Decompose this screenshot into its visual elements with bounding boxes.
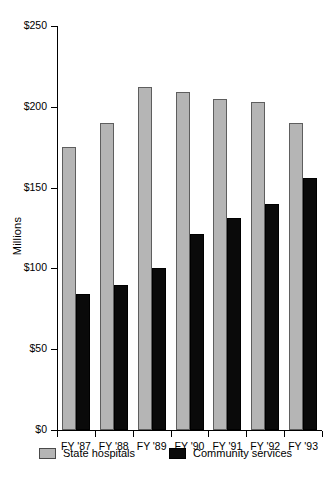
legend-swatch-icon xyxy=(39,448,56,459)
x-axis-tick xyxy=(322,431,323,437)
bar-chart: Millions $0$50$100$150$200$250 FY '87FY … xyxy=(0,0,331,488)
x-axis-tick xyxy=(284,431,285,437)
x-axis-tick xyxy=(57,431,58,437)
y-axis-tick-label: $150 xyxy=(24,181,47,193)
y-axis-tick-label: $50 xyxy=(29,342,47,354)
y-axis-tick: $250 xyxy=(51,26,58,27)
bar-state-hospitals xyxy=(62,147,76,430)
x-axis-tick xyxy=(95,431,96,437)
bar-community-services xyxy=(265,204,279,430)
chart-legend: State hospitals Community services xyxy=(0,447,331,459)
bar-community-services xyxy=(114,285,128,430)
bar-community-services xyxy=(190,234,204,430)
y-axis-tick-label: $100 xyxy=(24,261,47,273)
bar-state-hospitals xyxy=(176,92,190,430)
bar-state-hospitals xyxy=(138,87,152,430)
bar-community-services xyxy=(303,178,317,430)
legend-label: State hospitals xyxy=(63,447,135,459)
x-axis-tick xyxy=(133,431,134,437)
plot-area: $0$50$100$150$200$250 FY '87FY '88FY '89… xyxy=(57,26,322,431)
x-axis-tick xyxy=(208,431,209,437)
y-axis-tick: $200 xyxy=(51,107,58,108)
bar-community-services xyxy=(227,218,241,430)
bar-community-services xyxy=(76,294,90,430)
y-axis-tick-label: $200 xyxy=(24,100,47,112)
legend-item-community-services: Community services xyxy=(169,447,292,459)
bar-state-hospitals xyxy=(289,123,303,430)
x-axis-tick xyxy=(171,431,172,437)
bar-state-hospitals xyxy=(213,99,227,430)
y-axis-tick-label: $0 xyxy=(35,423,47,435)
y-axis-line xyxy=(57,26,58,431)
bar-community-services xyxy=(152,268,166,430)
x-axis-tick xyxy=(246,431,247,437)
legend-swatch-icon xyxy=(169,448,186,459)
y-axis-title: Millions xyxy=(11,186,23,286)
bar-state-hospitals xyxy=(100,123,114,430)
legend-label: Community services xyxy=(193,447,292,459)
x-axis-line xyxy=(57,430,322,431)
y-axis-tick: $50 xyxy=(51,349,58,350)
y-axis-tick: $150 xyxy=(51,188,58,189)
bar-state-hospitals xyxy=(251,102,265,430)
y-axis-tick-label: $250 xyxy=(24,19,47,31)
y-axis-tick: $100 xyxy=(51,268,58,269)
legend-item-state-hospitals: State hospitals xyxy=(39,447,135,459)
